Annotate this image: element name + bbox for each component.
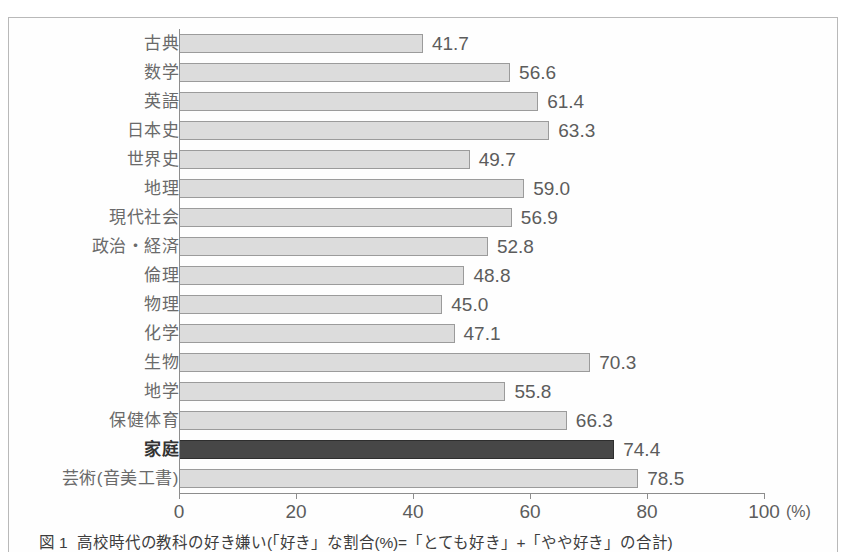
category-label: 保健体育: [109, 406, 179, 435]
bar-track: 59.0: [179, 174, 839, 203]
chart-row: 物理45.0: [9, 290, 839, 319]
bar: [179, 440, 614, 459]
bar-value-label: 59.0: [533, 175, 570, 202]
chart-row: 英語61.4: [9, 87, 839, 116]
bar: [179, 179, 524, 198]
chart-row: 地理59.0: [9, 174, 839, 203]
bar-value-label: 63.3: [558, 117, 595, 144]
bar: [179, 382, 505, 401]
bar: [179, 411, 567, 430]
x-axis-tick: [530, 493, 531, 499]
y-axis-line: [179, 29, 180, 493]
chart-row: 現代社会56.9: [9, 203, 839, 232]
bar-value-label: 56.9: [521, 204, 558, 231]
x-axis-tick: [179, 493, 180, 499]
bar-value-label: 61.4: [547, 88, 584, 115]
bar-track: 41.7: [179, 29, 839, 58]
bar-value-label: 52.8: [497, 233, 534, 260]
chart-row: 古典41.7: [9, 29, 839, 58]
x-axis-unit-label: (%): [786, 503, 811, 521]
category-label: 英語: [144, 87, 179, 116]
bar: [179, 208, 512, 227]
category-label: 物理: [144, 290, 179, 319]
bar-track: 63.3: [179, 116, 839, 145]
bar-chart: 古典41.7数学56.6英語61.4日本史63.3世界史49.7地理59.0現代…: [9, 18, 839, 518]
bar-track: 74.4: [179, 435, 839, 464]
bar: [179, 34, 423, 53]
x-axis-tick-label: 0: [174, 501, 185, 523]
bar: [179, 150, 470, 169]
bar-track: 56.6: [179, 58, 839, 87]
bar-track: 70.3: [179, 348, 839, 377]
x-axis-line: [179, 493, 764, 494]
category-label: 地理: [144, 174, 179, 203]
bar-value-label: 55.8: [514, 378, 551, 405]
x-axis-tick-label: 100: [748, 501, 780, 523]
bar-value-label: 47.1: [464, 320, 501, 347]
figure-caption-number: 図 1: [39, 534, 67, 551]
x-axis-tick-label: 80: [636, 501, 657, 523]
bar: [179, 121, 549, 140]
category-label: 現代社会: [109, 203, 179, 232]
x-axis-tick: [296, 493, 297, 499]
bar-value-label: 45.0: [451, 291, 488, 318]
category-label: 地学: [144, 377, 179, 406]
bar-value-label: 74.4: [623, 436, 660, 463]
bar-track: 66.3: [179, 406, 839, 435]
bar-value-label: 56.6: [519, 59, 556, 86]
category-label: 政治・経済: [92, 232, 180, 261]
chart-row: 生物70.3: [9, 348, 839, 377]
category-label: 古典: [144, 29, 179, 58]
bar: [179, 63, 510, 82]
bar-value-label: 49.7: [479, 146, 516, 173]
bar: [179, 92, 538, 111]
category-label: 家庭: [144, 435, 179, 464]
chart-row: 日本史63.3: [9, 116, 839, 145]
bar: [179, 237, 488, 256]
category-label: 芸術(音美工書): [62, 464, 179, 493]
figure-caption: 図 1高校時代の教科の好き嫌い(「好き」な割合(%)=「とても好き」+「やや好き…: [39, 530, 672, 552]
x-axis-tick: [647, 493, 648, 499]
bar-value-label: 66.3: [576, 407, 613, 434]
chart-row: 化学47.1: [9, 319, 839, 348]
chart-row: 倫理48.8: [9, 261, 839, 290]
figure-caption-text: 高校時代の教科の好き嫌い(「好き」な割合(%)=「とても好き」+「やや好き」の合…: [77, 534, 672, 551]
bar: [179, 353, 590, 372]
category-label: 化学: [144, 319, 179, 348]
x-axis-tick-label: 40: [402, 501, 423, 523]
x-axis-tick-label: 20: [285, 501, 306, 523]
bar-track: 45.0: [179, 290, 839, 319]
bar-track: 47.1: [179, 319, 839, 348]
bar-value-label: 70.3: [599, 349, 636, 376]
bar: [179, 469, 638, 488]
category-label: 世界史: [127, 145, 180, 174]
category-label: 数学: [144, 58, 179, 87]
chart-row: 政治・経済52.8: [9, 232, 839, 261]
figure-frame: 古典41.7数学56.6英語61.4日本史63.3世界史49.7地理59.0現代…: [8, 17, 838, 552]
bar-track: 49.7: [179, 145, 839, 174]
bar-track: 61.4: [179, 87, 839, 116]
chart-row: 数学56.6: [9, 58, 839, 87]
bar-track: 48.8: [179, 261, 839, 290]
bar: [179, 324, 455, 343]
chart-rows: 古典41.7数学56.6英語61.4日本史63.3世界史49.7地理59.0現代…: [9, 29, 839, 493]
bar: [179, 295, 442, 314]
bar-value-label: 78.5: [647, 465, 684, 492]
bar: [179, 266, 464, 285]
category-label: 倫理: [144, 261, 179, 290]
bar-track: 55.8: [179, 377, 839, 406]
chart-row: 地学55.8: [9, 377, 839, 406]
chart-row: 保健体育66.3: [9, 406, 839, 435]
bar-value-label: 48.8: [473, 262, 510, 289]
bar-value-label: 41.7: [432, 30, 469, 57]
bar-track: 56.9: [179, 203, 839, 232]
category-label: 日本史: [127, 116, 180, 145]
bar-track: 52.8: [179, 232, 839, 261]
bar-track: 78.5: [179, 464, 839, 493]
x-axis-tick: [413, 493, 414, 499]
chart-row: 芸術(音美工書)78.5: [9, 464, 839, 493]
x-axis-tick: [764, 493, 765, 499]
chart-row: 世界史49.7: [9, 145, 839, 174]
chart-row: 家庭74.4: [9, 435, 839, 464]
x-axis-tick-label: 60: [519, 501, 540, 523]
